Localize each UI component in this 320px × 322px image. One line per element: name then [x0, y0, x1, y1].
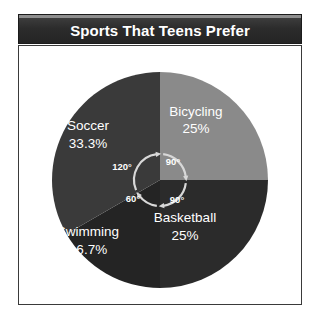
- page-title: Sports That Teens Prefer: [70, 20, 250, 38]
- chart-content-panel: [18, 45, 302, 305]
- chart-title-bar: Sports That Teens Prefer: [18, 14, 302, 44]
- pie-chart-figure: Sports That Teens Prefer Bicycling25%90°…: [0, 0, 320, 322]
